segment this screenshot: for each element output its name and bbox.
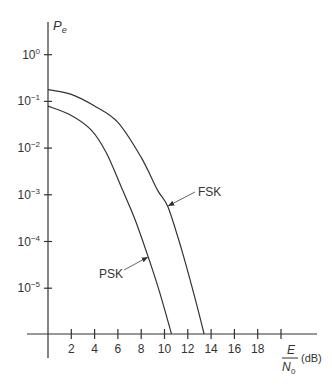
x-ticks: 24681012141618 xyxy=(68,329,281,356)
y-tick-label: 10−4 xyxy=(18,234,41,249)
x-tick-label: 6 xyxy=(115,342,122,356)
svg-text:E: E xyxy=(287,343,296,357)
x-tick-label: 14 xyxy=(204,342,218,356)
x-tick-label: 2 xyxy=(68,342,75,356)
x-tick-label: 10 xyxy=(158,342,172,356)
x-tick-label: 8 xyxy=(138,342,145,356)
series-fsk-curve xyxy=(48,90,204,334)
svg-text:N: N xyxy=(282,360,291,374)
y-tick-label: 10−2 xyxy=(18,140,41,155)
psk-arrow xyxy=(124,257,148,270)
fsk-label: FSK xyxy=(198,185,221,199)
fsk-arrow xyxy=(168,192,195,206)
svg-text:(dB): (dB) xyxy=(301,352,322,364)
y-tick-label: 100 xyxy=(22,47,40,62)
x-tick-label: 12 xyxy=(181,342,195,356)
y-tick-label: 10−1 xyxy=(18,93,41,108)
y-axis-label: Pe xyxy=(53,18,67,35)
x-tick-label: 16 xyxy=(228,342,242,356)
x-axis-label: E N 0 (dB) xyxy=(282,343,322,376)
psk-label: PSK xyxy=(99,267,123,281)
y-tick-label: 10−5 xyxy=(18,280,41,295)
x-tick-label: 4 xyxy=(91,342,98,356)
y-tick-label: 10−3 xyxy=(18,187,41,202)
x-tick-label: 18 xyxy=(251,342,265,356)
series-psk-curve xyxy=(48,106,172,334)
y-ticks: 10010−110−210−310−410−5 xyxy=(18,47,52,296)
chart-canvas: Pe 10010−110−210−310−410−5 2468101214161… xyxy=(0,0,332,387)
svg-text:0: 0 xyxy=(291,367,296,376)
